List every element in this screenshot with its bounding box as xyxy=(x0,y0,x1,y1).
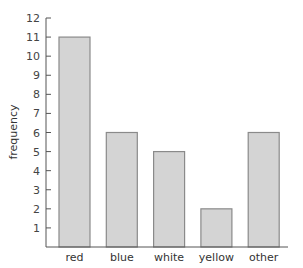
bar-chart: 123456789101112 redbluewhiteyellowother … xyxy=(0,0,303,268)
x-tick-label-other: other xyxy=(249,251,279,264)
y-tick-label: 2 xyxy=(33,203,40,216)
bars xyxy=(59,37,279,247)
y-tick-label: 6 xyxy=(33,127,40,140)
bar-white xyxy=(154,152,185,247)
y-tick-label: 3 xyxy=(33,184,40,197)
y-tick-label: 12 xyxy=(26,12,40,25)
bar-yellow xyxy=(201,209,232,247)
x-tick-label-yellow: yellow xyxy=(199,251,234,264)
y-axis-ticks: 123456789101112 xyxy=(26,12,51,235)
y-axis-label: frequency xyxy=(7,104,20,160)
y-tick-label: 11 xyxy=(26,31,40,44)
y-tick-label: 1 xyxy=(33,222,40,235)
x-tick-label-white: white xyxy=(154,251,184,264)
y-tick-label: 5 xyxy=(33,146,40,159)
y-tick-label: 9 xyxy=(33,69,40,82)
bar-red xyxy=(59,37,90,247)
y-tick-label: 4 xyxy=(33,165,40,178)
bar-other xyxy=(248,133,279,248)
x-tick-label-red: red xyxy=(65,251,83,264)
y-tick-label: 7 xyxy=(33,107,40,120)
x-tick-label-blue: blue xyxy=(110,251,134,264)
x-axis-labels: redbluewhiteyellowother xyxy=(65,251,278,264)
y-tick-label: 10 xyxy=(26,50,40,63)
y-tick-label: 8 xyxy=(33,88,40,101)
bar-blue xyxy=(106,133,137,248)
